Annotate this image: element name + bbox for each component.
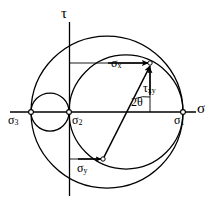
- sigma-1-label-sub: 1: [180, 118, 184, 127]
- sigma-1-label: σ1: [174, 114, 184, 127]
- tau-xy-label-sub: xy: [148, 86, 156, 95]
- sigma-3-label: σ3: [8, 114, 18, 127]
- sigma-x-label: σx: [111, 57, 121, 70]
- point-marker-sigma-x: [148, 61, 152, 65]
- point-marker-sigma2: [67, 110, 72, 115]
- sigma-axis-label: σ: [197, 101, 205, 116]
- two-theta-label: 2θ: [131, 96, 143, 108]
- sigma-2-label: σ2: [72, 114, 82, 127]
- sigma-y-label-sub: y: [83, 166, 87, 175]
- sigma-y-label: σy: [77, 162, 87, 175]
- mohr-circle-figure: τ σ σ1 σ2 σ3 σx σy τxy 2θ: [0, 0, 220, 202]
- point-marker-sigma3: [29, 110, 34, 115]
- tau-axis-label: τ: [61, 6, 67, 21]
- sigma-x-label-sub: x: [117, 61, 121, 70]
- tau-xy-label: τxy: [143, 82, 156, 95]
- point-marker-sigma-y: [101, 157, 105, 161]
- sigma-3-label-sub: 3: [14, 118, 18, 127]
- mohr-circle-svg: [0, 0, 220, 202]
- sigma-2-label-sub: 2: [78, 118, 82, 127]
